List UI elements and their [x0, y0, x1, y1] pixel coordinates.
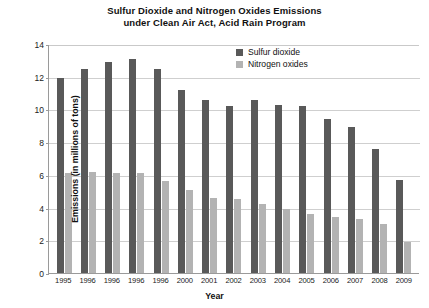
legend-swatch-icon-nitrogen-oxides [236, 61, 243, 68]
bar-groups [49, 45, 419, 273]
bar-nitrogen-oxides [356, 219, 363, 273]
bar-nitrogen-oxides [113, 173, 120, 273]
bar-nitrogen-oxides [307, 214, 314, 273]
bar-sulfur-dioxide [275, 105, 282, 273]
bar-group [367, 45, 391, 273]
x-axis-tick-label: 1996 [100, 276, 124, 290]
chart-title: Sulfur Dioxide and Nitrogen Oxides Emiss… [0, 5, 429, 29]
legend-swatch-icon-sulfur-dioxide [236, 49, 243, 56]
bar-sulfur-dioxide [202, 100, 209, 273]
y-axis-label: Emissions (in millions of tons) [70, 95, 80, 223]
x-axis-tick-label: 2006 [319, 276, 343, 290]
legend-label-sulfur-dioxide: Sulfur dioxide [248, 47, 300, 57]
bar-nitrogen-oxides [210, 198, 217, 273]
y-axis-tick-mark-0 [46, 274, 49, 275]
bar-group [343, 45, 367, 273]
y-axis-tick-0: 0 [39, 269, 44, 279]
bar-sulfur-dioxide [57, 78, 64, 273]
bar-group [319, 45, 343, 273]
x-axis-label: Year [0, 291, 429, 301]
bar-nitrogen-oxides [404, 242, 411, 273]
bar-nitrogen-oxides [137, 173, 144, 273]
bar-group [198, 45, 222, 273]
y-axis-tick-10: 10 [35, 105, 44, 115]
legend-label-nitrogen-oxides: Nitrogen oxides [248, 59, 308, 69]
bar-group [392, 45, 416, 273]
bar-sulfur-dioxide [226, 106, 233, 273]
x-axis-tick-label: 2000 [173, 276, 197, 290]
bar-nitrogen-oxides [89, 172, 96, 273]
y-axis-tick-14: 14 [35, 40, 44, 50]
x-axis-tick-label: 2005 [294, 276, 318, 290]
bar-nitrogen-oxides [186, 190, 193, 273]
bar-sulfur-dioxide [396, 180, 403, 273]
bar-group [295, 45, 319, 273]
bar-group [270, 45, 294, 273]
x-axis-tick-label: 2001 [197, 276, 221, 290]
bar-nitrogen-oxides [332, 217, 339, 273]
x-axis-tick-label: 2009 [392, 276, 416, 290]
y-axis-tick-2: 2 [39, 236, 44, 246]
x-axis-tick-label: 2002 [221, 276, 245, 290]
bar-group [76, 45, 100, 273]
bar-nitrogen-oxides [259, 204, 266, 273]
chart-legend: Sulfur dioxide Nitrogen oxides [236, 47, 308, 71]
bar-group [125, 45, 149, 273]
bar-sulfur-dioxide [299, 106, 306, 273]
x-axis-tick-label: 2003 [246, 276, 270, 290]
bar-nitrogen-oxides [234, 199, 241, 273]
legend-item-sulfur-dioxide: Sulfur dioxide [236, 47, 308, 57]
bar-sulfur-dioxide [324, 119, 331, 273]
bar-nitrogen-oxides [380, 224, 387, 273]
emissions-bar-chart: Sulfur Dioxide and Nitrogen Oxides Emiss… [0, 0, 429, 308]
y-axis-tick-12: 12 [35, 73, 44, 83]
x-axis-tick-labels: 1995199619961996199620002001200220032004… [48, 276, 419, 290]
bar-nitrogen-oxides [162, 181, 169, 273]
bar-sulfur-dioxide [178, 90, 185, 273]
bar-sulfur-dioxide [372, 149, 379, 273]
bar-sulfur-dioxide [348, 127, 355, 273]
chart-title-line-2: under Clean Air Act, Acid Rain Program [0, 17, 429, 29]
x-axis-tick-label: 2007 [343, 276, 367, 290]
y-axis-tick-8: 8 [39, 138, 44, 148]
plot-area: 02468101214 Emissions (in millions of to… [48, 45, 419, 274]
bar-sulfur-dioxide [81, 69, 88, 273]
bar-group [222, 45, 246, 273]
legend-item-nitrogen-oxides: Nitrogen oxides [236, 59, 308, 69]
x-axis-tick-label: 1996 [124, 276, 148, 290]
bar-sulfur-dioxide [154, 69, 161, 273]
x-axis-tick-label: 1996 [75, 276, 99, 290]
bar-group [173, 45, 197, 273]
x-axis-tick-label: 1995 [51, 276, 75, 290]
chart-title-line-1: Sulfur Dioxide and Nitrogen Oxides Emiss… [107, 5, 322, 16]
y-axis-tick-4: 4 [39, 204, 44, 214]
bar-group [101, 45, 125, 273]
x-axis-tick-label: 1996 [148, 276, 172, 290]
bar-sulfur-dioxide [105, 62, 112, 273]
bar-sulfur-dioxide [129, 59, 136, 273]
bar-sulfur-dioxide [251, 100, 258, 273]
bar-nitrogen-oxides [283, 209, 290, 273]
bar-group [149, 45, 173, 273]
y-axis-tick-6: 6 [39, 171, 44, 181]
bar-group [246, 45, 270, 273]
x-axis-tick-label: 2008 [367, 276, 391, 290]
x-axis-tick-label: 2004 [270, 276, 294, 290]
